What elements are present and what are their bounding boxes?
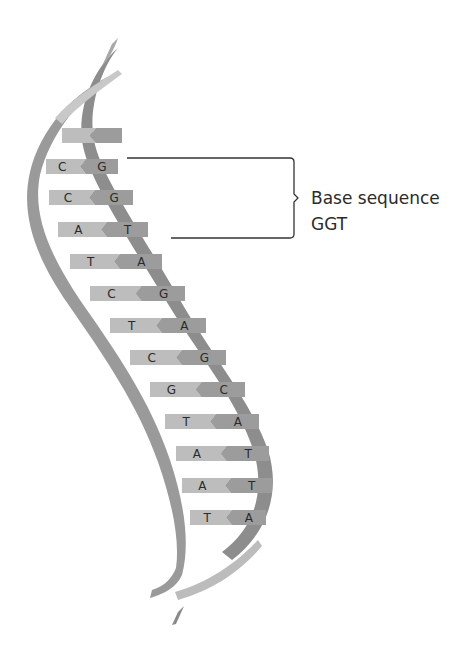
base-letter-left: C (107, 287, 115, 301)
base-pair-12: TA (190, 510, 266, 525)
base-pair-2: CG (49, 190, 133, 205)
base-letter-left: A (74, 223, 83, 237)
top-tip (102, 38, 118, 66)
base-letter-right: T (247, 479, 256, 493)
base-pair-3: AT (58, 222, 148, 237)
base-left (90, 286, 142, 301)
base-letter-right: G (97, 160, 106, 174)
base-letter-right: A (245, 511, 254, 525)
base-letter-left: T (127, 319, 136, 333)
base-letter-left: T (86, 255, 95, 269)
base-right (90, 128, 122, 143)
base-left (176, 446, 227, 461)
base-pair-7: CG (130, 350, 226, 365)
base-left (70, 254, 120, 269)
base-letter-right: T (123, 223, 132, 237)
base-pair-1: CG (46, 159, 118, 174)
base-pair-8: GC (150, 382, 245, 397)
base-letter-left: C (58, 160, 66, 174)
bracket (127, 158, 298, 238)
base-letter-right: G (109, 191, 118, 205)
base-letter-right: A (137, 255, 146, 269)
base-left (165, 414, 216, 429)
base-pair-9: TA (165, 414, 259, 429)
bottom-tip (172, 606, 184, 625)
base-pair-5: CG (90, 286, 185, 301)
base-letter-right: A (180, 319, 189, 333)
base-letter-left: G (167, 383, 176, 397)
base-pair-rungs: CGCGATTACGTACGGCTAATATTA (46, 128, 272, 525)
base-letter-right: C (219, 383, 227, 397)
bottom-ribbon (175, 540, 262, 600)
base-letter-left: T (181, 415, 190, 429)
dna-helix-diagram: CGCGATTACGTACGGCTAATATTA Base sequence G… (0, 0, 476, 657)
label-sequence-value: GGT (311, 214, 348, 234)
base-letter-right: G (200, 351, 209, 365)
base-left (190, 510, 232, 525)
base-left (130, 350, 182, 365)
front-strand (27, 72, 186, 598)
base-letter-left: A (193, 447, 202, 461)
base-letter-left: C (64, 191, 72, 205)
base-pair-10: AT (176, 446, 269, 461)
base-letter-left: C (147, 351, 155, 365)
base-pair-11: AT (182, 478, 272, 493)
base-left (58, 222, 107, 237)
base-pair-0 (62, 128, 122, 143)
base-letter-left: T (202, 511, 211, 525)
base-pair-6: TA (110, 318, 206, 333)
base-letter-left: A (198, 479, 207, 493)
base-left (110, 318, 162, 333)
base-letter-right: A (234, 415, 243, 429)
base-letter-right: T (243, 447, 252, 461)
base-letter-right: G (159, 287, 168, 301)
base-left (182, 478, 231, 493)
label-base-sequence: Base sequence (311, 188, 440, 208)
base-pair-4: TA (70, 254, 162, 269)
